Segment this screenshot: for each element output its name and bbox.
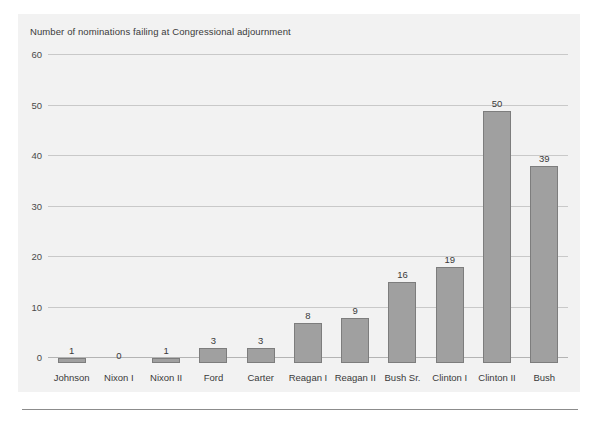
bar[interactable] xyxy=(152,358,180,363)
bar[interactable] xyxy=(483,111,511,364)
plot-area: 0102030405060 101338916195039 xyxy=(48,54,568,357)
bottom-divider xyxy=(22,409,578,410)
y-axis-tick-label: 0 xyxy=(37,352,42,363)
x-axis-label: Clinton II xyxy=(473,372,520,383)
bar-value-label: 19 xyxy=(444,254,455,265)
bar-series: 101338916195039 xyxy=(48,54,568,363)
y-axis-tick-label: 20 xyxy=(31,251,42,262)
y-axis-tick-label: 50 xyxy=(31,99,42,110)
y-axis-tick-label: 10 xyxy=(31,301,42,312)
bar[interactable] xyxy=(436,267,464,363)
bar-slot[interactable]: 16 xyxy=(379,54,426,363)
x-axis-label: Carter xyxy=(237,372,284,383)
x-axis-labels: JohnsonNixon INixon IIFordCarterReagan I… xyxy=(48,372,568,383)
bar-value-label: 0 xyxy=(116,350,121,361)
chart-title: Number of nominations failing at Congres… xyxy=(30,26,291,37)
x-axis-label: Nixon II xyxy=(143,372,190,383)
x-axis-label: Reagan I xyxy=(284,372,331,383)
bar-value-label: 1 xyxy=(164,345,169,356)
bar-value-label: 1 xyxy=(69,345,74,356)
bar-slot[interactable]: 3 xyxy=(190,54,237,363)
x-axis-label: Bush xyxy=(521,372,568,383)
bar-slot[interactable]: 39 xyxy=(521,54,568,363)
y-axis-tick-label: 30 xyxy=(31,200,42,211)
y-axis-tick-label: 60 xyxy=(31,49,42,60)
bar-slot[interactable]: 8 xyxy=(284,54,331,363)
bar[interactable] xyxy=(58,358,86,363)
bar-slot[interactable]: 19 xyxy=(426,54,473,363)
bar[interactable] xyxy=(341,318,369,363)
chart-figure: Number of nominations failing at Congres… xyxy=(0,0,597,423)
x-axis-label: Nixon I xyxy=(95,372,142,383)
bar-value-label: 16 xyxy=(397,269,408,280)
bar[interactable] xyxy=(530,166,558,363)
bar-value-label: 3 xyxy=(211,335,216,346)
bar-slot[interactable]: 50 xyxy=(473,54,520,363)
x-axis-label: Clinton I xyxy=(426,372,473,383)
bar-value-label: 50 xyxy=(492,98,503,109)
bar-value-label: 39 xyxy=(539,153,550,164)
bar-slot[interactable]: 9 xyxy=(332,54,379,363)
bar[interactable] xyxy=(388,282,416,363)
bar-value-label: 9 xyxy=(353,305,358,316)
x-axis-label: Johnson xyxy=(48,372,95,383)
bar-slot[interactable]: 1 xyxy=(143,54,190,363)
bar-slot[interactable]: 1 xyxy=(48,54,95,363)
bar-value-label: 3 xyxy=(258,335,263,346)
bar[interactable] xyxy=(199,348,227,363)
bar[interactable] xyxy=(247,348,275,363)
bar-value-label: 8 xyxy=(305,310,310,321)
x-axis-label: Bush Sr. xyxy=(379,372,426,383)
x-axis-label: Reagan II xyxy=(332,372,379,383)
y-axis-tick-label: 40 xyxy=(31,150,42,161)
bar[interactable] xyxy=(294,323,322,363)
x-axis-label: Ford xyxy=(190,372,237,383)
bar-slot[interactable]: 0 xyxy=(95,54,142,363)
bar-slot[interactable]: 3 xyxy=(237,54,284,363)
